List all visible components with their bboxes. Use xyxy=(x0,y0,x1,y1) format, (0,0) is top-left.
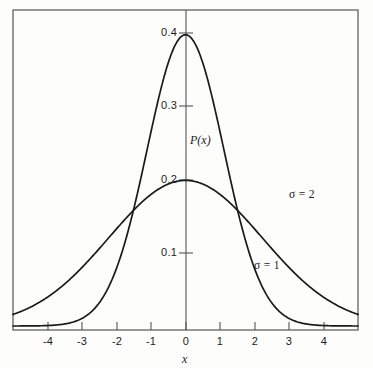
x-axis-label: x xyxy=(182,352,187,367)
x-tick-label-2: 2 xyxy=(240,335,270,347)
series-annotation-sigma-1: σ = 1 xyxy=(254,259,280,271)
x-tick-label-m4: -4 xyxy=(33,335,63,347)
y-tick-label-0-2: 0.2 xyxy=(150,173,177,185)
y-tick-label-0-4: 0.4 xyxy=(150,26,177,38)
x-tick-label-0: 0 xyxy=(171,335,201,347)
x-tick-label-3: 3 xyxy=(274,335,304,347)
x-tick-label-m3: -3 xyxy=(67,335,97,347)
y-tick-label-0-1: 0.1 xyxy=(150,246,177,258)
x-tick-label-m1: -1 xyxy=(136,335,166,347)
x-tick-label-m2: -2 xyxy=(102,335,132,347)
x-tick-label-4: 4 xyxy=(309,335,339,347)
gaussian-distribution-figure: 0.4 0.3 0.2 0.1 -4 -3 -2 -1 0 1 2 3 4 P(… xyxy=(0,0,373,368)
x-axis-ticks xyxy=(48,322,324,330)
plot-canvas xyxy=(0,0,373,368)
y-tick-label-0-3: 0.3 xyxy=(150,99,177,111)
x-tick-label-1: 1 xyxy=(205,335,235,347)
y-axis-label: P(x) xyxy=(190,133,211,148)
series-annotation-sigma-2: σ = 2 xyxy=(289,188,315,200)
